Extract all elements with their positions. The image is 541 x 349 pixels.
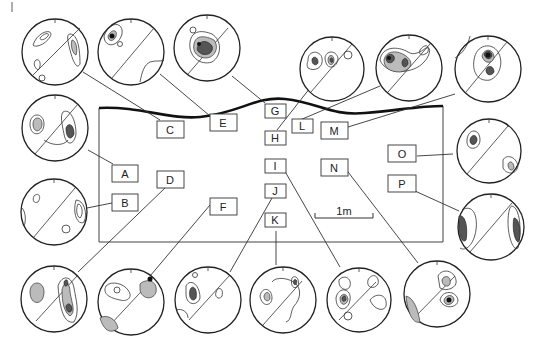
stereonet-d <box>21 266 87 332</box>
label-box-e: E <box>210 114 237 131</box>
label-box-l: L <box>292 119 313 133</box>
stereonet-c <box>22 19 88 85</box>
svg-text:G: G <box>271 105 280 117</box>
label-boxes: A B C D E F G H I J K L M N O P <box>112 104 416 227</box>
label-box-c: C <box>157 121 184 138</box>
stereonet-n <box>404 261 470 327</box>
svg-text:J: J <box>272 185 278 197</box>
label-box-j: J <box>265 184 286 198</box>
svg-text:A: A <box>121 168 129 180</box>
stereonet-l <box>376 35 442 101</box>
svg-text:E: E <box>219 117 226 129</box>
scale-bar-label: 1m <box>336 205 351 217</box>
svg-text:D: D <box>166 174 174 186</box>
stereonet-b <box>21 179 87 245</box>
svg-text:O: O <box>398 148 407 160</box>
label-box-a: A <box>112 165 138 182</box>
label-box-k: K <box>265 213 286 227</box>
stereonet-o <box>457 119 521 183</box>
label-box-m: M <box>321 122 348 139</box>
stereonet-g <box>174 15 240 81</box>
label-box-f: F <box>210 198 237 215</box>
stereonet-j <box>175 267 241 333</box>
stereonet-i <box>327 268 391 332</box>
label-box-h: H <box>265 131 286 145</box>
label-box-d: D <box>157 171 184 188</box>
svg-text:N: N <box>330 162 338 174</box>
svg-text:C: C <box>166 124 174 136</box>
label-box-p: P <box>388 175 416 192</box>
stereonet-k <box>250 267 316 333</box>
svg-text:H: H <box>271 132 279 144</box>
label-box-i: I <box>265 159 286 173</box>
svg-text:F: F <box>220 201 227 213</box>
stereonet-p <box>458 194 524 260</box>
label-box-n: N <box>321 159 348 176</box>
stereonet-e <box>98 19 164 85</box>
svg-text:M: M <box>329 125 338 137</box>
stereonet-a <box>22 95 88 161</box>
label-box-b: B <box>112 194 138 211</box>
stereonet-f <box>98 269 164 335</box>
stereonet-diagram: 1m A B C D E F G H I J K L M N O P <box>0 0 541 349</box>
label-box-g: G <box>265 104 286 118</box>
label-box-o: O <box>388 145 416 162</box>
svg-text:B: B <box>121 197 128 209</box>
stereonet-m <box>455 36 521 102</box>
stereonet-h <box>300 37 364 101</box>
svg-text:P: P <box>398 178 405 190</box>
svg-text:K: K <box>271 214 279 226</box>
svg-text:L: L <box>299 120 305 132</box>
svg-text:I: I <box>273 160 276 172</box>
scale-bar: 1m <box>315 205 373 218</box>
